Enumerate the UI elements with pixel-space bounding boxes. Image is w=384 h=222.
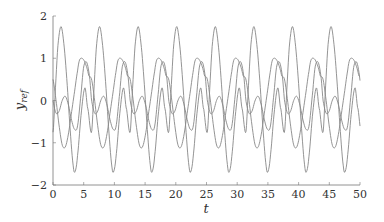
x-tick-label: 35	[261, 188, 275, 201]
x-tick-label: 25	[200, 188, 214, 201]
x-tick-label: 50	[353, 188, 367, 201]
line-chart: 05101520253035404550−2−1012 t yref	[0, 0, 384, 222]
x-tick-label: 30	[230, 188, 244, 201]
y-tick-label: −1	[31, 137, 47, 150]
data-curves	[53, 27, 360, 173]
y-axis-label: yref	[12, 88, 29, 111]
y-tick-label: 2	[40, 10, 47, 23]
x-tick-label: 15	[138, 188, 152, 201]
series-line-1	[53, 27, 360, 173]
axis-ticks: 05101520253035404550−2−1012	[31, 10, 367, 201]
x-tick-label: 10	[107, 188, 121, 201]
x-tick-label: 5	[80, 188, 87, 201]
y-tick-label: 1	[40, 52, 47, 65]
x-axis-label: t	[203, 201, 209, 216]
x-tick-label: 45	[322, 188, 336, 201]
series-line-2	[53, 62, 360, 131]
x-tick-label: 0	[50, 188, 57, 201]
x-tick-label: 40	[292, 188, 306, 201]
y-tick-label: −2	[31, 179, 47, 192]
y-tick-label: 0	[40, 95, 47, 108]
x-tick-label: 20	[169, 188, 183, 201]
